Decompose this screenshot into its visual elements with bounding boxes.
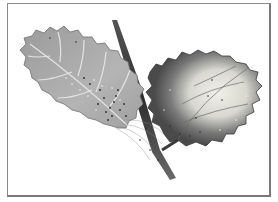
leaf-illustration [0, 0, 278, 202]
left-leaf [20, 26, 144, 128]
right-leaf [146, 50, 262, 146]
